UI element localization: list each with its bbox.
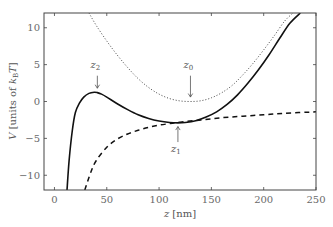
dotted-curve — [89, 13, 293, 102]
plot-frame — [44, 13, 316, 190]
axis-ticks: 050100150200250−10−50510 — [19, 13, 326, 205]
tick-label: 250 — [306, 194, 325, 205]
tick-label: 0 — [51, 194, 57, 205]
y-axis-label: V [units of kBT] — [7, 62, 20, 140]
potential-chart: 050100150200250−10−50510 z2z0z1 z [nm] V… — [0, 0, 333, 227]
tick-label: 50 — [100, 194, 113, 205]
tick-label: 200 — [254, 194, 273, 205]
dashed-curve — [85, 112, 316, 190]
tick-label: 100 — [150, 194, 169, 205]
x-axis-label: z [nm] — [163, 208, 196, 219]
annotation-z1: z1 — [170, 143, 181, 156]
tick-label: 0 — [34, 96, 40, 107]
plot-lines — [67, 13, 316, 190]
tick-label: −5 — [25, 133, 40, 144]
tick-label: 5 — [34, 59, 40, 70]
tick-label: −10 — [19, 170, 40, 181]
tick-label: 150 — [202, 194, 221, 205]
tick-label: 10 — [27, 22, 40, 33]
annotation-z0: z0 — [183, 59, 194, 72]
annotation-z2: z2 — [89, 59, 100, 72]
annotations: z2z0z1 — [89, 59, 193, 156]
solid-curve — [67, 13, 300, 190]
